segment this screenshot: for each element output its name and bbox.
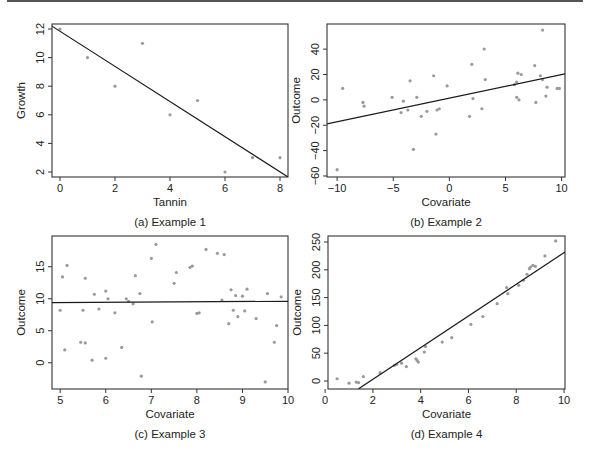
data-point bbox=[539, 74, 542, 77]
data-point bbox=[515, 96, 518, 99]
data-point bbox=[483, 48, 486, 51]
data-point bbox=[534, 101, 537, 104]
data-point bbox=[402, 100, 405, 103]
data-point bbox=[558, 87, 561, 90]
panel-caption: (c) Example 3 bbox=[135, 428, 206, 440]
data-point bbox=[545, 86, 548, 89]
data-point bbox=[104, 357, 107, 360]
data-point bbox=[86, 56, 89, 59]
x-tick-label: −5 bbox=[387, 182, 400, 194]
data-point bbox=[168, 113, 171, 116]
panel-caption: (a) Example 1 bbox=[134, 216, 206, 228]
data-point bbox=[216, 252, 219, 255]
data-point bbox=[543, 254, 546, 257]
data-point bbox=[241, 295, 244, 298]
data-point bbox=[90, 359, 93, 362]
data-point bbox=[125, 297, 128, 300]
data-point bbox=[361, 101, 364, 104]
data-point bbox=[175, 271, 178, 274]
y-tick-label: −20 bbox=[309, 116, 321, 135]
y-tick-label: 2 bbox=[34, 169, 46, 175]
y-tick-label: 12 bbox=[34, 23, 46, 35]
x-tick-label: 0 bbox=[322, 394, 328, 406]
y-tick-label: 0 bbox=[310, 378, 322, 384]
x-axis-label: Covariate bbox=[422, 408, 471, 420]
data-point bbox=[417, 360, 420, 363]
data-point bbox=[420, 115, 423, 118]
y-axis-label: Outcome bbox=[15, 289, 27, 336]
data-point bbox=[154, 243, 157, 246]
data-point bbox=[273, 341, 276, 344]
y-tick-label: 5 bbox=[34, 328, 46, 334]
data-point bbox=[278, 156, 281, 159]
data-point bbox=[505, 286, 508, 289]
data-point bbox=[120, 346, 123, 349]
data-point bbox=[412, 148, 415, 151]
data-point bbox=[140, 375, 143, 378]
panel-d-example-4: 0246810050100150200250CovariateOutcome(d… bbox=[291, 233, 570, 440]
x-tick-label: 10 bbox=[558, 394, 570, 406]
x-tick-label: 7 bbox=[148, 394, 154, 406]
data-point bbox=[480, 107, 483, 110]
regression-line bbox=[327, 74, 565, 124]
data-point bbox=[84, 277, 87, 280]
data-point bbox=[496, 302, 499, 305]
y-tick-label: 8 bbox=[34, 83, 46, 89]
data-point bbox=[357, 381, 360, 384]
x-tick-label: 8 bbox=[513, 394, 519, 406]
x-tick-label: 4 bbox=[418, 394, 424, 406]
data-point bbox=[554, 239, 557, 242]
data-point bbox=[400, 362, 403, 365]
data-point bbox=[113, 311, 116, 314]
y-tick-label: −40 bbox=[309, 141, 321, 160]
data-point bbox=[134, 274, 137, 277]
data-point bbox=[471, 97, 474, 100]
data-point bbox=[198, 311, 201, 314]
data-point bbox=[544, 94, 547, 97]
panel-b-example-2: −10−50510−60−40−2002040CovariateOutcome(… bbox=[290, 24, 568, 228]
data-point bbox=[84, 341, 87, 344]
data-point bbox=[61, 275, 64, 278]
data-point bbox=[432, 74, 435, 77]
data-point bbox=[362, 375, 365, 378]
y-tick-label: 250 bbox=[310, 233, 322, 251]
panel-caption: (b) Example 2 bbox=[410, 216, 482, 228]
data-point bbox=[341, 87, 344, 90]
data-point bbox=[408, 79, 411, 82]
data-point bbox=[275, 324, 278, 327]
data-point bbox=[245, 288, 248, 291]
data-point bbox=[255, 317, 258, 320]
y-axis-label: Outcome bbox=[291, 289, 303, 336]
data-point bbox=[399, 111, 402, 114]
x-tick-label: 10 bbox=[556, 182, 568, 194]
y-tick-label: 40 bbox=[309, 43, 321, 55]
y-tick-label: 10 bbox=[34, 51, 46, 63]
data-point bbox=[63, 348, 66, 351]
x-axis-label: Covariate bbox=[421, 196, 470, 208]
data-point bbox=[138, 292, 141, 295]
data-point bbox=[106, 297, 109, 300]
x-tick-label: 5 bbox=[57, 394, 63, 406]
panel-a-example-1: 0246824681012TanninGrowth(a) Example 1 bbox=[15, 23, 288, 228]
x-tick-label: 8 bbox=[194, 394, 200, 406]
data-point bbox=[104, 289, 107, 292]
data-point bbox=[362, 105, 365, 108]
data-point bbox=[434, 133, 437, 136]
data-point bbox=[196, 99, 199, 102]
x-tick-label: 8 bbox=[277, 182, 283, 194]
data-point bbox=[506, 292, 509, 295]
plot-data bbox=[52, 243, 288, 384]
data-point bbox=[438, 107, 441, 110]
x-tick-label: 6 bbox=[465, 394, 471, 406]
data-point bbox=[97, 307, 100, 310]
data-point bbox=[441, 340, 444, 343]
y-axis-label: Growth bbox=[15, 82, 27, 119]
data-point bbox=[234, 294, 237, 297]
y-tick-label: 10 bbox=[34, 293, 46, 305]
data-point bbox=[347, 382, 350, 385]
data-point bbox=[223, 253, 226, 256]
panel-caption: (d) Example 4 bbox=[411, 428, 483, 440]
data-point bbox=[280, 295, 283, 298]
data-point bbox=[405, 365, 408, 368]
data-point bbox=[484, 78, 487, 81]
